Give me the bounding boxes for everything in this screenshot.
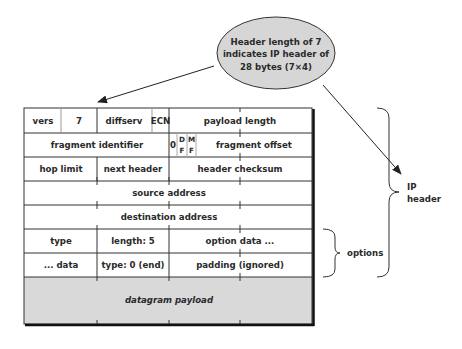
field-df-top: D — [179, 135, 185, 144]
field-header-checksum: header checksum — [198, 164, 283, 174]
field-next-header: next header — [104, 164, 163, 174]
option-data-continued: ... data — [44, 260, 79, 270]
option-data: option data ... — [206, 236, 275, 246]
callout-line-3: 28 bytes (7×4) — [240, 62, 312, 72]
options-brace-icon — [323, 229, 340, 277]
field-fragment-identifier: fragment identifier — [51, 140, 144, 150]
field-fragment-offset: fragment offset — [216, 140, 292, 150]
field-diffserv: diffserv — [106, 116, 143, 126]
field-payload-length: payload length — [204, 116, 276, 126]
field-version: vers — [33, 116, 54, 126]
options-label: options — [347, 248, 383, 258]
field-destination-address: destination address — [121, 212, 218, 222]
field-ecn: ECN — [151, 116, 170, 126]
field-header-length: 7 — [76, 116, 82, 126]
field-mf-bottom: F — [189, 146, 194, 155]
callout-line-2: indicates IP header of — [223, 49, 329, 59]
ip-header-diagram: vers 7 diffserv ECN payload length fragm… — [0, 0, 462, 349]
arrow-to-header-length — [98, 66, 214, 102]
field-hop-limit: hop limit — [39, 164, 82, 174]
option-length: length: 5 — [111, 236, 155, 246]
ip-header-label-line2: header — [407, 194, 442, 204]
ip-header-label-line1: IP — [407, 182, 417, 192]
option-padding: padding (ignored) — [196, 260, 284, 270]
field-df-bottom: F — [180, 146, 185, 155]
field-source-address: source address — [132, 188, 206, 198]
field-mf-top: M — [188, 135, 195, 144]
field-reserved-bit: 0 — [170, 140, 176, 150]
option-type: type — [50, 236, 72, 246]
option-end-type: type: 0 (end) — [101, 260, 164, 270]
callout-line-1: Header length of 7 — [231, 37, 322, 47]
row-dividers — [24, 133, 312, 277]
datagram-payload-label: datagram payload — [125, 295, 214, 305]
